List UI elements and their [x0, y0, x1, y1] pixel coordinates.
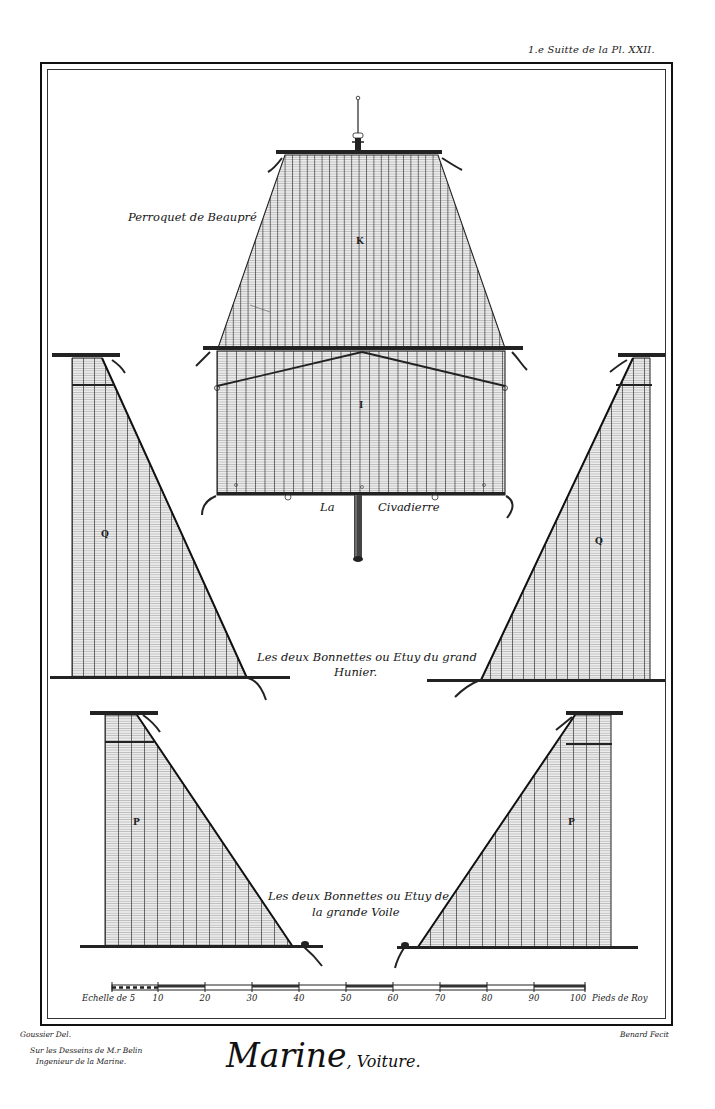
caption-civadiere: Civadierre: [378, 500, 439, 514]
scale-tick-30: 30: [247, 993, 258, 1003]
scale-tick-50: 50: [341, 993, 352, 1003]
figure-letter-p-right: P: [568, 817, 575, 827]
caption-perroquet-de-beaupre: Perroquet de Beaupré: [128, 210, 257, 224]
scale-tick-80: 80: [482, 993, 493, 1003]
plate-title: Marine, Voiture.: [226, 1036, 421, 1075]
caption-bonnettes-hunier-line2: Hunier.: [334, 665, 377, 679]
credit-draughtsman: Goussier Del.: [20, 1030, 71, 1039]
scale-tick-90: 90: [529, 993, 540, 1003]
scale-tick-60: 60: [388, 993, 399, 1003]
plate-title-main: Marine: [226, 1036, 347, 1075]
figure-letter-q-left: Q: [101, 529, 109, 539]
scale-bar: [112, 982, 585, 992]
scale-tick-20: 20: [200, 993, 211, 1003]
scale-tick-70: 70: [435, 993, 446, 1003]
sail-bonnette-voile-right: [395, 711, 638, 968]
scale-tick-40: 40: [294, 993, 305, 1003]
caption-bonnettes-hunier-line1: Les deux Bonnettes ou Etuy du grand: [257, 650, 477, 664]
engraving-artwork: [0, 0, 715, 1109]
scale-label: Echelle de 5: [82, 993, 135, 1003]
credit-after-line1: Sur les Desseins de M.r Belin: [30, 1046, 142, 1055]
figure-letter-i: I: [359, 400, 363, 410]
figure-letter-p-left: P: [133, 817, 140, 827]
credit-after-line2: Ingenieur de la Marine.: [36, 1057, 126, 1066]
figure-letter-k: K: [356, 236, 364, 246]
scale-unit: Pieds de Roy: [592, 993, 647, 1003]
caption-civadiere-la: La: [320, 500, 335, 514]
sail-perroquet-de-beaupre: [218, 96, 505, 348]
caption-bonnettes-voile-line1: Les deux Bonnettes ou Etuy de: [268, 889, 449, 903]
scale-tick-10: 10: [153, 993, 164, 1003]
sail-civadiere: [196, 346, 527, 562]
plate-title-sub: , Voiture.: [347, 1052, 421, 1071]
credit-engraver: Benard Fecit: [620, 1030, 669, 1039]
figure-letter-q-right: Q: [595, 536, 603, 546]
sail-bonnette-voile-left: [80, 711, 323, 966]
caption-bonnettes-voile-line2: la grande Voile: [312, 905, 399, 919]
scale-tick-100: 100: [570, 993, 586, 1003]
